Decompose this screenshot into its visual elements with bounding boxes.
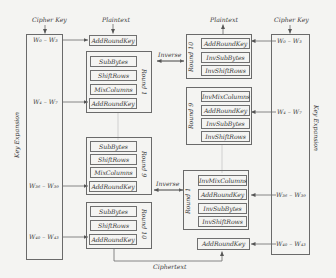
- initial-add-round-key-box: AddRoundKey: [89, 35, 137, 46]
- key-expansion-box-left: [26, 34, 63, 260]
- key-expansion-label-right: Key Expansion: [312, 103, 320, 153]
- encryption-round10-container: SubBytes ShiftRows AddRoundKey Round 10: [86, 202, 152, 249]
- op-subbytes: SubBytes: [90, 56, 137, 67]
- word-label-w4-w7-left: W₄ – W₇: [33, 98, 58, 106]
- word-label-w36-w39-left: W₃₆ – W₃₉: [29, 182, 59, 190]
- op-mixcolumns: MixColumns: [90, 84, 137, 95]
- word-label-w40-w43-left: W₄₀ – W₄₃: [29, 233, 59, 241]
- op-addroundkey: AddRoundKey: [89, 98, 137, 109]
- round1-label-enc: Round 1: [140, 62, 148, 102]
- op-addroundkey: AddRoundKey: [198, 189, 247, 200]
- encryption-round9-container: SubBytes ShiftRows MixColumns AddRoundKe…: [86, 137, 152, 195]
- decryption-round9-container: InvMixColumns AddRoundKey InvSubBytes In…: [186, 87, 252, 145]
- word-label-w4-w7-right: W₄ – W₇: [277, 108, 302, 116]
- op-invsubbytes: InvSubBytes: [198, 203, 247, 214]
- op-invsubbytes: InvSubBytes: [201, 52, 250, 63]
- op-invshiftrows: InvShiftRows: [201, 65, 250, 76]
- ciphertext-label: Ciphertext: [153, 263, 186, 271]
- round10-label-enc: Round 10: [140, 204, 148, 244]
- round9-label-dec: Round 9: [187, 96, 195, 136]
- op-addroundkey: AddRoundKey: [201, 105, 250, 116]
- key-expansion-label-left: Key Expansion: [13, 110, 21, 160]
- op-invsubbytes: InvSubBytes: [201, 118, 250, 129]
- op-shiftrows: ShiftRows: [90, 220, 137, 231]
- key-expansion-box-right: [271, 34, 310, 255]
- round9-label-enc: Round 9: [140, 144, 148, 184]
- round1-label-dec: Round 1: [184, 181, 192, 221]
- plaintext-label-right: Plaintext: [210, 16, 238, 24]
- op-mixcolumns: MixColumns: [90, 167, 137, 178]
- inverse-label-top: Inverse: [158, 51, 181, 59]
- op-addroundkey: AddRoundKey: [201, 38, 250, 49]
- op-invshiftrows: InvShiftRows: [198, 216, 247, 227]
- decryption-round1-container: InvMixColumns AddRoundKey InvSubBytes In…: [183, 170, 249, 230]
- inverse-label-bottom: Inverse: [156, 180, 179, 188]
- op-addroundkey: AddRoundKey: [89, 181, 137, 192]
- op-addroundkey: AddRoundKey: [89, 234, 137, 245]
- word-label-w0-w3-left: W₀ – W₃: [33, 36, 58, 44]
- word-label-w0-w3-right: W₀ – W₃: [277, 37, 302, 45]
- op-invmixcolumns: InvMixColumns: [198, 175, 247, 186]
- word-label-w40-w43-right: W₄₀ – W₄₃: [276, 240, 306, 248]
- op-subbytes: SubBytes: [90, 206, 137, 217]
- word-label-w36-w39-right: W₃₆ – W₃₉: [276, 191, 306, 199]
- cipher-key-label-left: Cipher Key: [32, 16, 67, 24]
- op-shiftrows: ShiftRows: [90, 70, 137, 81]
- plaintext-label-left: Plaintext: [102, 16, 130, 24]
- cipher-key-label-right: Cipher Key: [274, 16, 309, 24]
- op-invshiftrows: InvShiftRows: [201, 131, 250, 142]
- round10-label-dec: Round 10: [187, 37, 195, 77]
- encryption-round1-container: SubBytes ShiftRows MixColumns AddRoundKe…: [86, 51, 152, 113]
- op-shiftrows: ShiftRows: [90, 154, 137, 165]
- decryption-round10-container: AddRoundKey InvSubBytes InvShiftRows Rou…: [186, 34, 252, 79]
- final-add-round-key-box: AddRoundKey: [197, 238, 250, 250]
- op-invmixcolumns: InvMixColumns: [201, 91, 250, 102]
- op-subbytes: SubBytes: [90, 141, 137, 152]
